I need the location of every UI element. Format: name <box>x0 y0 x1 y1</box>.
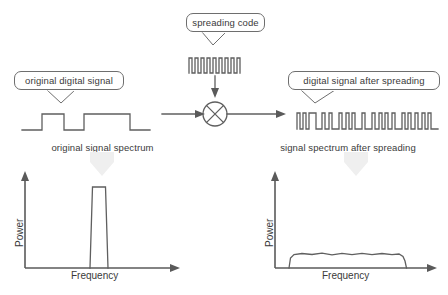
chart-right-x-axis-label: Frequency <box>322 271 369 281</box>
callout-digital-signal-after-spreading-label: digital signal after spreading <box>303 76 424 86</box>
callout-digital-signal-after-spreading: digital signal after spreading <box>288 71 440 90</box>
callout-original-digital-signal-tail <box>45 89 85 105</box>
callout-digital-signal-after-spreading-tail <box>299 89 343 105</box>
chart-left-y-axis-label: Power <box>15 219 25 247</box>
waveform-spread-signal <box>296 108 440 134</box>
mixer-multiplier <box>160 76 290 132</box>
chart-spread-signal-spectrum <box>258 168 448 280</box>
waveform-original-digital-signal <box>20 108 152 136</box>
chart-narrowband-peak <box>90 187 108 268</box>
chart-left-y-axis-label-text: Power <box>14 219 25 247</box>
chart-original-signal-spectrum <box>8 168 208 280</box>
callout-original-digital-signal-label: original digital signal <box>25 76 113 86</box>
chart-right-x-axis-label-text: Frequency <box>322 270 369 281</box>
waveform-spreading-code <box>188 54 244 76</box>
callout-original-digital-signal: original digital signal <box>14 71 124 90</box>
callout-spreading-code-label: spreading code <box>192 18 258 28</box>
callout-spreading-code: spreading code <box>186 13 265 32</box>
chart-y-axis-arrowhead <box>271 171 279 181</box>
chart-x-axis-arrowhead <box>427 264 437 272</box>
chart-left-x-axis-label: Frequency <box>71 271 118 281</box>
chart-left-x-axis-label-text: Frequency <box>71 270 118 281</box>
chart-x-axis-arrowhead <box>170 264 180 272</box>
chart-wideband-plateau <box>289 253 407 268</box>
mixer-cross-icon <box>207 106 224 123</box>
chart-right-y-axis-label-text: Power <box>264 219 275 247</box>
mixer-input-top-arrowhead <box>211 88 219 98</box>
mixer-output-arrowhead <box>276 110 286 118</box>
spread-spectrum-diagram: original digital signal original signal … <box>0 0 448 295</box>
callout-spreading-code-tail <box>200 31 234 47</box>
chart-right-y-axis-label: Power <box>265 219 275 247</box>
chart-y-axis-arrowhead <box>21 171 29 181</box>
